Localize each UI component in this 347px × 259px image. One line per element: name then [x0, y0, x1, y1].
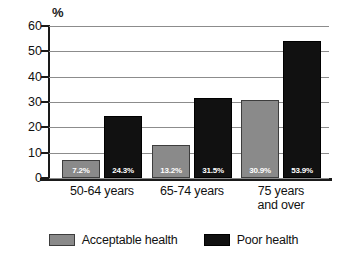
bar-value-label: 7.2%: [63, 166, 99, 175]
gridline: [49, 178, 329, 179]
y-axis-tick-label: 40: [20, 71, 42, 83]
category-label: 75 yearsand over: [226, 184, 336, 212]
y-axis-tick: [41, 25, 49, 27]
legend-swatch-acceptable: [49, 234, 75, 246]
bar-value-label: 24.3%: [105, 166, 141, 175]
legend-item[interactable]: Poor health: [204, 234, 299, 247]
y-axis-unit-label: %: [52, 6, 63, 20]
category-label-line: 75 years: [258, 184, 304, 198]
legend-item[interactable]: Acceptable health: [49, 234, 178, 247]
bar-value-label: 13.2%: [153, 166, 189, 175]
y-axis-tick-label: 0: [20, 172, 42, 184]
category-label-line: 50-64 years: [70, 184, 134, 198]
y-axis-tick: [41, 177, 49, 179]
bar-value-label: 53.9%: [284, 166, 320, 175]
legend-label: Poor health: [237, 234, 299, 247]
bar-value-label: 31.5%: [195, 166, 231, 175]
category-label-line: and over: [226, 198, 336, 212]
y-axis-tick: [41, 126, 49, 128]
bar-acceptable: 30.9%: [241, 100, 279, 178]
y-axis-tick-labels: 0102030405060: [18, 26, 42, 178]
y-axis-tick-label: 60: [20, 20, 42, 32]
y-axis-tick: [41, 152, 49, 154]
bar-poor: 53.9%: [283, 41, 321, 178]
bar-poor: 31.5%: [194, 98, 232, 178]
bar-poor: 24.3%: [104, 116, 142, 178]
chart-legend: Acceptable healthPoor health: [0, 229, 347, 251]
y-axis-tick: [41, 76, 49, 78]
gridline: [49, 26, 329, 27]
bar-acceptable: 7.2%: [62, 160, 100, 178]
y-axis-tick: [41, 50, 49, 52]
legend-label: Acceptable health: [82, 234, 178, 247]
legend-swatch-poor: [204, 234, 230, 246]
y-axis-tick-label: 30: [20, 96, 42, 108]
bar-chart: % 0102030405060 7.2%24.3%13.2%31.5%30.9%…: [0, 0, 347, 259]
y-axis-tick-label: 50: [20, 45, 42, 57]
category-label-line: 65-74 years: [160, 184, 224, 198]
y-axis-tick-label: 10: [20, 147, 42, 159]
bar-value-label: 30.9%: [242, 166, 278, 175]
y-axis-tick-label: 20: [20, 121, 42, 133]
x-axis-category-labels: 50-64 years65-74 years75 yearsand over: [49, 184, 329, 224]
bar-acceptable: 13.2%: [152, 145, 190, 178]
plot-area: 7.2%24.3%13.2%31.5%30.9%53.9%: [49, 26, 329, 178]
y-axis-tick: [41, 101, 49, 103]
